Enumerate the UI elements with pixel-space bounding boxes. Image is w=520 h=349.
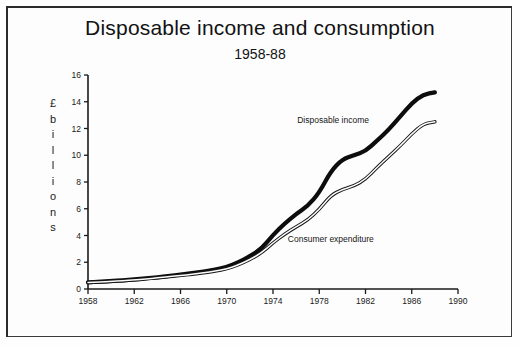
series-line-consumer-expenditure-outline [88, 122, 435, 283]
x-axis-tick-label: 1966 [171, 296, 190, 306]
x-axis-tick-label: 1978 [310, 296, 329, 306]
series-annotation-label: Consumer expenditure [288, 234, 374, 244]
series-annotation-label: Disposable income [297, 115, 369, 125]
chart-plot-area: 0246810121416195819621966197019741978198… [0, 0, 520, 349]
x-axis-tick-label: 1958 [79, 296, 98, 306]
x-axis-tick-label: 1974 [264, 296, 283, 306]
chart-svg: 0246810121416195819621966197019741978198… [0, 0, 520, 349]
y-axis-tick-label: 14 [72, 97, 82, 107]
x-axis-tick-label: 1970 [217, 296, 236, 306]
y-axis-tick-label: 0 [76, 284, 81, 294]
y-axis-tick-label: 10 [72, 150, 82, 160]
x-axis-tick-label: 1962 [125, 296, 144, 306]
series-line-consumer-expenditure-fill [88, 122, 435, 283]
y-axis-tick-label: 12 [72, 124, 82, 134]
chart-series [88, 92, 435, 282]
y-axis-tick-label: 4 [76, 231, 81, 241]
y-axis-tick-label: 2 [76, 257, 81, 267]
x-axis-tick-label: 1990 [449, 296, 468, 306]
y-axis-tick-label: 16 [72, 70, 82, 80]
x-axis-tick-label: 1982 [356, 296, 375, 306]
x-axis-tick-label: 1986 [402, 296, 421, 306]
y-axis-tick-label: 6 [76, 204, 81, 214]
y-axis-tick-label: 8 [76, 177, 81, 187]
screenshot-page: Disposable income and consumption 1958-8… [0, 0, 520, 349]
